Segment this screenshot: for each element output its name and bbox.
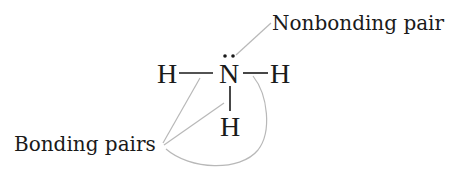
atom-n-central: N — [219, 58, 239, 89]
ammonia-lewis-structure-diagram: H N H H Nonbonding pair Bonding pairs — [0, 0, 465, 171]
lone-pair-dot-2 — [231, 54, 235, 58]
bonding-leader-curve-right — [166, 76, 267, 166]
atom-h-left: H — [157, 58, 177, 89]
nonbonding-leader-line — [236, 23, 271, 55]
atom-h-bottom: H — [220, 111, 240, 142]
nonbonding-pair-label: Nonbonding pair — [272, 11, 445, 35]
bonding-pairs-label: Bonding pairs — [14, 132, 156, 156]
lone-pair-dot-1 — [223, 54, 227, 58]
bonding-leader-line-bottom — [164, 103, 224, 145]
atom-h-right: H — [270, 58, 290, 89]
